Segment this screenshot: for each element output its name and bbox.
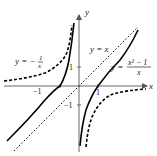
svg-text:y = −: y = − <box>14 56 36 66</box>
curve-neg-reciprocal-right <box>86 89 146 147</box>
curve-main-right <box>80 30 138 146</box>
label-y-equals-x: y = x <box>89 44 109 54</box>
svg-text:1: 1 <box>39 54 43 62</box>
svg-text:x: x <box>37 62 42 70</box>
svg-text:y =: y = <box>110 62 123 72</box>
tick-label-x-neg: −1 <box>33 87 42 96</box>
x-axis-label: x <box>148 81 153 91</box>
label-neg-reciprocal: y = − 1 x <box>14 54 43 70</box>
tick-label-y-neg: −1 <box>64 101 73 110</box>
y-axis-label: y <box>84 7 89 17</box>
curve-main-left <box>7 23 74 141</box>
tick-label-x-pos: 1 <box>96 88 100 97</box>
svg-text:x: x <box>136 68 141 77</box>
graph-canvas: x y 1 −1 −1 1 y = x y = x² − 1 x y = − 1… <box>0 0 157 156</box>
tick-label-y-pos: 1 <box>69 63 73 72</box>
curve-neg-reciprocal-left <box>4 25 72 81</box>
label-main-function: y = x² − 1 x <box>110 58 151 77</box>
svg-text:x² − 1: x² − 1 <box>127 58 147 67</box>
